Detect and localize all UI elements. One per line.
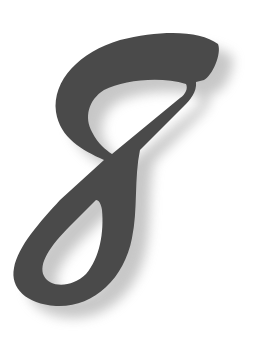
- figure-canvas: [0, 0, 255, 350]
- numeral-eight-icon: [0, 0, 255, 350]
